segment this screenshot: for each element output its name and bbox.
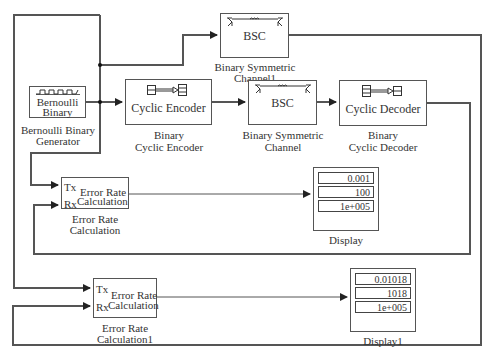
block-caption: Calculation1 [85,333,165,345]
block-inner-label: Calculation [108,299,159,311]
display-value-field: 0.001 [318,172,374,184]
block-caption: Display [313,234,379,246]
error-rate-calculation-block[interactable]: Tx Rx Error Rate Calculation [61,177,129,209]
port-tx-label: Tx [96,283,108,295]
block-caption: Cyclic Encoder [124,141,214,153]
block-caption: Cyclic Decoder [338,141,428,153]
port-tx-label: Tx [64,181,76,193]
channel-icon [254,84,312,94]
port-rx-label: Rx [96,301,109,313]
channel-icon [226,17,284,27]
block-inner-label: Calculation [77,195,128,207]
block-inner-label: Cyclic Decoder [340,103,426,115]
block-caption: Binary [338,129,428,141]
block-caption: Channel [236,141,330,153]
block-caption: Display1 [350,335,416,347]
decoder-icon [362,85,406,97]
pulse-train-icon [36,89,80,95]
display-value-field: 1e+005 [318,200,374,212]
line-to-bsc1 [100,35,217,65]
line-outer-loop [14,15,100,288]
bernoulli-binary-block[interactable]: Bernoulli Binary [29,86,86,118]
display-value-field: 100 [318,186,374,198]
bsc-block[interactable]: BSC [248,80,317,125]
block-caption: Binary [124,129,214,141]
encoder-icon [147,84,191,96]
block-caption: Generator [18,135,98,147]
display-value-field: 1018 [355,287,411,299]
junction-dot [98,100,102,104]
block-inner-label: BSC [249,97,316,109]
cyclic-decoder-block[interactable]: Cyclic Decoder [339,80,427,126]
cyclic-encoder-block[interactable]: Cyclic Encoder [125,79,212,125]
port-rx-label: Rx [64,198,77,210]
junction-dot [98,63,102,67]
simulink-model-canvas: Bernoulli Binary Bernoulli Binary Genera… [0,0,492,357]
block-caption: Calculation [55,224,135,236]
block-caption: Binary Symmetric [236,129,330,141]
bsc1-block[interactable]: BSC [220,13,289,58]
display-block[interactable]: 0.001 100 1e+005 [313,167,379,231]
display-value-field: 0.01018 [355,273,411,285]
block-inner-label: Cyclic Encoder [126,102,211,114]
block-inner-label: BSC [221,30,288,42]
block-inner-label: Binary [30,106,85,118]
error-rate-calculation1-block[interactable]: Tx Rx Error Rate Calculation [93,278,157,318]
display1-block[interactable]: 0.01018 1018 1e+005 [350,268,416,332]
display-value-field: 1e+005 [355,301,411,313]
